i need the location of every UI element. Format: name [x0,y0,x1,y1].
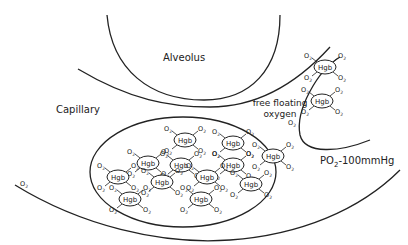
o2-label: O2 [20,180,28,189]
o2-label: O2 [264,169,272,178]
o2-label: O2 [286,163,294,172]
hgb-label: Hgb [226,140,241,148]
hgb-label: Hgb [315,98,330,106]
free-floating-line1: free floating [250,98,310,109]
o2-label: O2 [143,184,151,193]
hgb-label: Hgb [200,174,215,182]
hgb-label: Hgb [194,196,209,204]
free-floating-oxygen-label: free floating oxygen [250,98,310,120]
o2-label: O2 [97,184,105,193]
o2-label: O2 [338,74,346,83]
hemoglobin-molecule: HgbO2O2O2O2 [252,141,294,172]
o2-label: O2 [131,184,139,193]
hgb-label: Hgb [244,181,259,189]
o2-label: O2 [180,206,188,215]
hemoglobin-molecule: HgbO2O2O2O2 [164,125,206,156]
o2-label: O2 [143,206,151,215]
o2-label: O2 [198,125,206,134]
capillary-label: Capillary [56,104,100,115]
o2-label: O2 [97,162,105,171]
o2-label: O2 [109,206,117,215]
o2-label: O2 [212,128,220,137]
hemoglobin-molecule: HgbO2O2O2O2 [180,184,222,215]
hemoglobin-molecule: HgbO2O2O2O2 [304,52,346,83]
o2-label: O2 [304,74,312,83]
hgb-label: Hgb [318,64,333,72]
o2-label: O2 [127,148,135,157]
o2-label: O2 [301,86,309,95]
o2-label: O2 [246,150,254,159]
o2-label: O2 [186,162,194,171]
alveolus-label: Alveolus [163,52,205,63]
hgb-label: Hgb [178,137,193,145]
o2-label: O2 [246,128,254,137]
o2-label: O2 [286,141,294,150]
oxygen-transport-diagram: HgbO2O2O2O2HgbO2O2O2O2HgbO2O2O2O2HgbO2O2… [0,0,408,245]
po2-label: PO2-100mmHg [320,155,394,171]
hgb-label: Hgb [123,196,138,204]
hgb-label: Hgb [155,179,170,187]
o2-label: O2 [214,206,222,215]
o2-label: O2 [288,119,296,128]
o2-label: O2 [230,191,238,200]
po2-text: PO [320,155,334,166]
hgb-label: Hgb [111,174,126,182]
o2-label: O2 [338,52,346,61]
o2-label: O2 [109,184,117,193]
o2-label: O2 [212,150,220,159]
free-floating-line2: oxygen [250,109,310,120]
o2-label: O2 [304,52,312,61]
hgb-label: Hgb [266,153,281,161]
o2-label: O2 [335,86,343,95]
o2-label: O2 [264,191,272,200]
o2-label: O2 [252,163,260,172]
o2-label: O2 [164,125,172,134]
po2-value: -100mmHg [338,155,394,166]
o2-label: O2 [335,108,343,117]
o2-label: O2 [252,141,260,150]
